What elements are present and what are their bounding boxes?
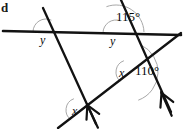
geometry-diagram-canvas: d yy115°x110°x [0,0,183,129]
label-x-mid: x [119,67,124,79]
parallel-arrow-marks-group [81,89,179,129]
label-115: 115° [116,10,140,23]
parallel-mark-left [81,101,105,129]
label-x-low: x [72,105,77,117]
horizontal-line [3,31,181,35]
label-110: 110° [135,64,159,77]
label-y-left: y [40,34,45,46]
parallel-mark-right [155,89,178,118]
label-y-right: y [110,35,115,47]
